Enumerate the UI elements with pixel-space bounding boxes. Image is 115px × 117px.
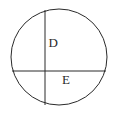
circle-outline: [11, 9, 107, 105]
label-d: D: [49, 35, 58, 50]
circle-chord-diagram: D E: [0, 0, 115, 117]
label-e: E: [62, 72, 70, 87]
